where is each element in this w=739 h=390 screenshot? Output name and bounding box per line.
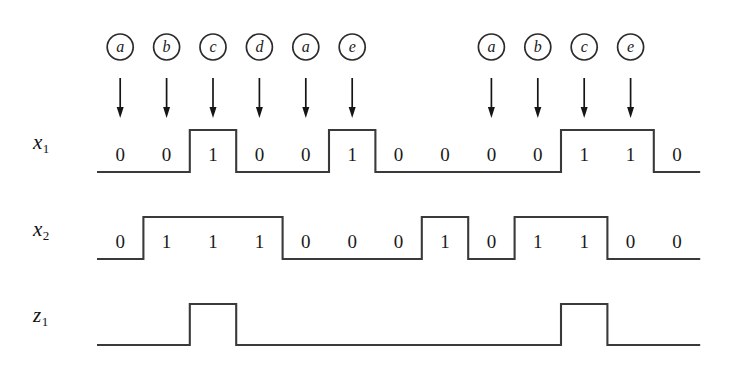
arrow-head [581,107,588,118]
symbol-letter: a [116,38,124,55]
symbol-letter: e [349,38,356,55]
bit-value: 0 [440,144,450,165]
input-symbol-group: abcdaeabce [107,34,643,60]
arrow-head [256,107,263,118]
bit-value: 1 [626,144,636,165]
row-label-subscript: 1 [43,141,50,156]
bit-value: 0 [115,231,125,252]
bit-value: 0 [301,144,311,165]
arrow-head [302,107,309,118]
arrow-head [488,107,495,118]
input-symbol-a-9: a [478,34,504,60]
arrow-a-9 [488,78,495,118]
timing-diagram-canvas: abcdaeabce 00100100001100111000101100 [0,0,739,390]
bit-value: 1 [579,144,589,165]
arrow-e-6 [349,78,356,118]
row-label-subscript: 1 [42,314,49,329]
arrow-head [627,107,634,118]
bit-value: 1 [208,231,218,252]
symbol-letter: e [627,38,634,55]
arrow-head [117,107,124,118]
bit-value: 0 [533,144,543,165]
row-label-base: z [33,303,41,327]
row-label-x1: x1 [33,130,49,155]
bit-value: 0 [301,231,311,252]
input-symbol-b-10: b [525,34,551,60]
arrow-head [349,107,356,118]
bit-value: 0 [487,231,497,252]
bit-value: 1 [208,144,218,165]
bit-value: 0 [672,231,682,252]
bit-value: 1 [533,231,543,252]
arrow-b-2 [163,78,170,118]
row-label-base: x [33,217,42,241]
arrow-a-1 [117,78,124,118]
bit-value: 1 [579,231,589,252]
bit-value: 1 [347,144,357,165]
arrow-b-10 [534,78,541,118]
row-label-z1: z1 [33,303,48,328]
arrow-head [163,107,170,118]
input-symbol-a-1: a [107,34,133,60]
row-label-x2: x2 [33,217,49,242]
input-symbol-e-12: e [618,34,644,60]
arrow-a-5 [302,78,309,118]
bit-value: 1 [255,231,265,252]
arrow-group [117,78,634,118]
bit-value: 0 [626,231,636,252]
arrow-head [534,107,541,118]
bit-value: 0 [115,144,125,165]
arrow-d-4 [256,78,263,118]
symbol-letter: a [302,38,310,55]
arrow-e-12 [627,78,634,118]
input-symbol-c-3: c [200,34,226,60]
arrow-c-3 [210,78,217,118]
bit-value: 0 [394,144,404,165]
bit-value-group: 00100100001100111000101100 [115,144,681,252]
bit-value: 0 [672,144,682,165]
input-symbol-d-4: d [246,34,272,60]
symbol-letter: b [534,38,542,55]
symbol-letter: b [163,38,171,55]
input-symbol-c-11: c [571,34,597,60]
arrow-c-11 [581,78,588,118]
bit-value: 0 [347,231,357,252]
symbol-letter: c [581,38,588,55]
input-symbol-a-5: a [293,34,319,60]
timing-diagram-figure: abcdaeabce 00100100001100111000101100 x1… [0,0,739,390]
symbol-letter: c [209,38,216,55]
bit-value: 1 [162,231,172,252]
input-symbol-b-2: b [154,34,180,60]
bit-value: 0 [394,231,404,252]
bit-value: 0 [162,144,172,165]
input-symbol-e-6: e [339,34,365,60]
waveform-z1 [97,304,700,345]
symbol-letter: a [487,38,495,55]
row-label-base: x [33,130,42,154]
bit-value: 0 [487,144,497,165]
row-label-subscript: 2 [43,228,50,243]
bit-value: 0 [255,144,265,165]
bit-value: 1 [440,231,450,252]
symbol-letter: d [255,38,264,55]
arrow-head [210,107,217,118]
